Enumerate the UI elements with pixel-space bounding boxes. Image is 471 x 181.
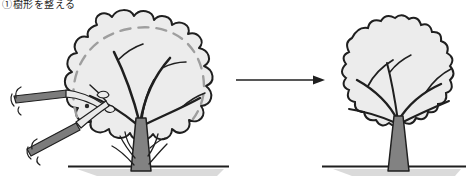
pruned-tree bbox=[342, 15, 454, 171]
cut-leaf-tuft bbox=[97, 91, 109, 98]
illustration-canvas: ①樹形を整える bbox=[0, 0, 471, 181]
twig bbox=[150, 138, 165, 148]
motion-line bbox=[18, 107, 21, 115]
pruned-canopy bbox=[342, 15, 454, 126]
unpruned-tree bbox=[65, 10, 213, 171]
pruning-illustration bbox=[0, 0, 471, 181]
motion-line bbox=[37, 157, 40, 165]
arrow-head bbox=[313, 76, 325, 85]
right-arrow bbox=[236, 76, 325, 85]
shear-pivot-bolt bbox=[85, 104, 89, 108]
shear-upper-handle bbox=[14, 90, 68, 103]
twig bbox=[112, 146, 134, 165]
shear-lower-handle bbox=[27, 123, 80, 156]
